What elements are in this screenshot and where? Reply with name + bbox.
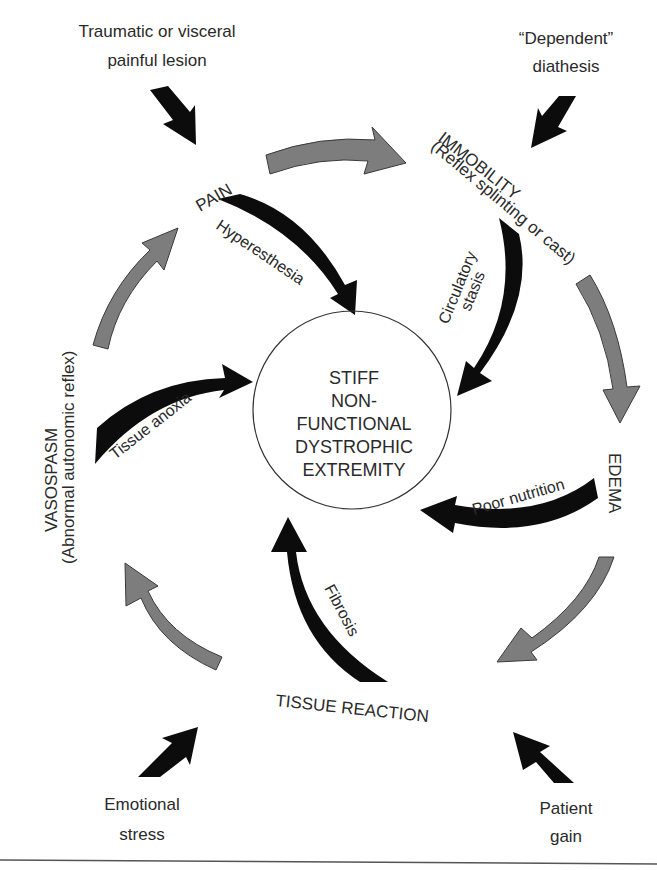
bottom-divider xyxy=(0,860,657,864)
emotional-input-arrow-icon xyxy=(138,727,198,777)
cycle-arrow-pain-to-immobility-icon xyxy=(266,127,406,174)
center-line-5: EXTREMITY xyxy=(302,460,405,480)
inward-arrow-hyperesthesia-icon xyxy=(218,194,357,315)
traumatic-input-arrow-icon xyxy=(150,86,196,145)
node-tissue-reaction: TISSUE REACTION xyxy=(275,691,430,726)
emotional-label-line2: stress xyxy=(119,825,164,844)
center-line-3: FUNCTIONAL xyxy=(296,414,411,434)
patient-label-line2: gain xyxy=(550,827,582,846)
node-edema: EDEMA xyxy=(605,453,624,514)
cycle-arrow-immobility-to-edema-icon xyxy=(576,275,640,423)
rsd-cycle-diagram: Traumatic or visceral painful lesion “De… xyxy=(0,0,657,870)
center-line-2: NON- xyxy=(331,391,377,411)
patient-label-line1: Patient xyxy=(540,799,593,818)
cycle-arrow-edema-to-tissue-icon xyxy=(497,557,614,662)
cycle-arrow-tissue-to-vasospasm-icon xyxy=(125,563,222,670)
traumatic-label-line2: painful lesion xyxy=(107,51,206,70)
cycle-arrow-vasospasm-to-pain-icon xyxy=(93,228,178,349)
node-immobility-sub: (Reflex splinting or cast) xyxy=(427,137,579,269)
dependent-label-line2: diathesis xyxy=(532,57,599,76)
center-line-1: STIFF xyxy=(329,368,379,388)
patient-input-arrow-icon xyxy=(513,732,574,783)
dependent-input-arrow-icon xyxy=(531,96,576,148)
node-pain: PAIN xyxy=(193,180,236,216)
node-vasospasm-sub: (Abnormal autonomic reflex) xyxy=(59,350,78,564)
emotional-label-line1: Emotional xyxy=(104,795,180,814)
center-line-4: DYSTROPHIC xyxy=(295,437,413,457)
traumatic-label-line1: Traumatic or visceral xyxy=(78,22,235,41)
dependent-label-line1: “Dependent” xyxy=(519,29,614,48)
